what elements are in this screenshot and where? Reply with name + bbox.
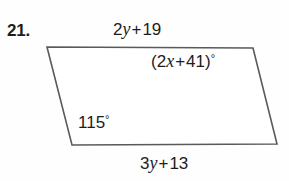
angle-constant: 41 <box>186 52 205 71</box>
top-right-angle-label: (2x+41)° <box>151 52 215 70</box>
bottom-left-angle-label: 115° <box>78 114 110 131</box>
top-side-constant: 19 <box>142 20 161 39</box>
bottom-left-angle-value: 115 <box>78 113 105 132</box>
angle-operator: + <box>174 52 186 71</box>
bottom-side-label: 3y+13 <box>140 154 188 172</box>
degree-symbol-icon: ° <box>105 113 109 125</box>
degree-symbol-icon: ° <box>211 52 215 64</box>
angle-variable: x <box>166 51 174 71</box>
geometry-problem-figure: 21. 2y+19 (2x+41)° 115° 3y+13 <box>0 0 289 181</box>
angle-coefficient: 2 <box>157 52 166 71</box>
top-side-operator: + <box>130 20 142 39</box>
bottom-side-operator: + <box>157 154 169 173</box>
top-side-label: 2y+19 <box>113 20 161 38</box>
problem-number: 21. <box>7 22 30 39</box>
bottom-side-constant: 13 <box>169 154 188 173</box>
